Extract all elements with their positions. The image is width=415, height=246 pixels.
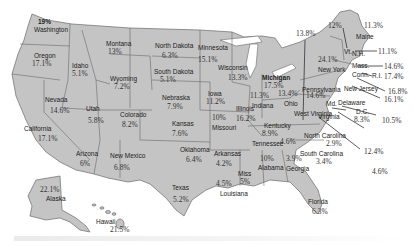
label-new-york: New York (318, 66, 345, 73)
label-mass: Mass. (352, 62, 369, 69)
label-idaho: Idaho (72, 62, 88, 69)
pct-idaho: 5.1% (72, 70, 88, 78)
label-tennessee: Tennessee (252, 140, 283, 147)
pct-washington: 19% (38, 18, 51, 25)
label-georgia: Georgia (286, 165, 309, 172)
label-iowa: Iowa (208, 90, 222, 97)
label-south-carolina: South Carolina (300, 150, 343, 157)
pct-oklahoma: 6.4% (186, 156, 202, 164)
pct-kentucky: 8.9% (262, 130, 278, 138)
label-kansas: Kansas (172, 120, 194, 127)
label-louisiana: Louisiana (220, 190, 248, 197)
alaska-shape (28, 176, 90, 232)
pct-delaware: 10.5% (382, 117, 401, 125)
pct-missouri: 10% (212, 114, 226, 122)
label-north-dakota: North Dakota (155, 42, 193, 49)
pct-west-virginia: 13.8% (296, 30, 315, 38)
pct-new-york: 24.1% (318, 56, 337, 64)
label-maine: Maine (356, 33, 374, 40)
pct-nh: 11.1% (378, 48, 397, 56)
pct-dc: 8.3% (354, 116, 370, 124)
label-delaware: Delaware (338, 99, 365, 106)
pct-ri: 17.4% (384, 73, 403, 81)
label-minnesota: Minnesota (198, 44, 228, 51)
pct-mass: 14.6% (384, 63, 403, 71)
pct-illinois: 16.2% (236, 115, 255, 123)
pct-vt: 12% (328, 22, 342, 30)
pct-north-dakota: 6.3% (162, 52, 178, 60)
pct-nevada: 14.6% (50, 107, 69, 115)
label-virginia: Virginia (318, 113, 340, 120)
pct-arizona: 6% (80, 160, 90, 168)
pct-wyoming: 7.2% (114, 83, 130, 91)
label-vt: Vt. (344, 48, 352, 55)
pct-louisiana: 4.5% (216, 180, 232, 188)
label-oregon: Oregon (34, 52, 56, 59)
label-miss: Miss (238, 170, 251, 177)
label-indiana: Indiana (252, 102, 273, 109)
pct-hawaii: 21.5% (110, 226, 129, 234)
pct-ohio: 13.4% (278, 90, 297, 98)
label-oklahoma: Oklahoma (180, 146, 210, 153)
pct-wisconsin: 13.3% (228, 74, 247, 82)
label-alaska: Alaska (46, 195, 66, 202)
label-arizona: Arizona (76, 150, 98, 157)
pct-iowa: 11.2% (206, 98, 225, 106)
blurred-caption (14, 236, 404, 241)
label-wisconsin: Wisconsin (218, 64, 248, 71)
pct-nebraska: 7.9% (167, 103, 183, 111)
pct-montana: 13% (108, 48, 122, 56)
label-ohio: Ohio (284, 100, 298, 107)
pct-alabama: 10% (260, 155, 274, 163)
label-new-jersey: New Jersey (344, 85, 378, 92)
pct-tennessee: 4.6% (280, 138, 296, 146)
pct-miss: 5% (240, 178, 250, 186)
pct-texas: 5.2% (173, 196, 189, 204)
pct-north-carolina: 2.9% (326, 140, 342, 148)
label-montana: Montana (106, 40, 131, 47)
label-utah: Utah (86, 105, 100, 112)
pct-florida: 6.3% (312, 208, 328, 216)
pct-new-jersey: 16.1% (384, 96, 403, 104)
label-missouri: Missouri (212, 124, 236, 131)
label-florida: Florida (308, 198, 328, 205)
label-nevada: Nevada (45, 96, 67, 103)
label-new-mexico: New Mexico (110, 152, 145, 159)
pct-alaska: 22.1% (40, 186, 59, 194)
label-colorado: Colorado (120, 111, 146, 118)
label-ri: R.I. (372, 72, 382, 79)
label-washington: Washington (34, 26, 68, 33)
label-wyoming: Wyoming (110, 75, 137, 82)
pct-oregon: 17.1% (32, 60, 51, 68)
label-nebraska: Nebraska (162, 94, 190, 101)
pct-utah: 5.8% (88, 117, 104, 125)
pct-arkansas: 4.2% (216, 160, 232, 168)
label-arkansas: Arkansas (214, 150, 241, 157)
pct-maine: 11.3% (364, 22, 383, 30)
pct-california: 17.1% (38, 135, 57, 143)
label-south-dakota: South Dakota (154, 68, 193, 75)
pct-minnesota: 15.1% (198, 56, 217, 64)
pct-south-carolina: 3.4% (316, 158, 332, 166)
pct-kansas: 7.6% (172, 130, 188, 138)
label-hawaii: Hawaii (96, 218, 116, 225)
label-dc: D.C. (356, 108, 369, 115)
pct-colorado: 8.2% (122, 121, 138, 129)
pct-south-dakota: 5.1% (160, 76, 176, 84)
pct-new-mexico: 6.8% (114, 164, 130, 172)
label-michigan: Michigan (262, 74, 290, 81)
label-california: California (24, 125, 51, 132)
pct-md: 4.6% (372, 168, 388, 176)
label-north-carolina: North Carolina (304, 132, 346, 139)
pct-virginia: 12.4% (364, 148, 383, 156)
pct-pennsylvania: 14.6% (306, 92, 325, 100)
pct-indiana: 11.3% (250, 92, 269, 100)
label-texas: Texas (172, 184, 189, 191)
label-kentucky: Kentucky (264, 122, 291, 129)
label-nh: N.H. (352, 50, 365, 57)
label-conn: Conn. (352, 71, 369, 78)
us-map (0, 0, 415, 246)
label-md: Md. (326, 100, 337, 107)
label-alabama: Alabama (258, 164, 284, 171)
